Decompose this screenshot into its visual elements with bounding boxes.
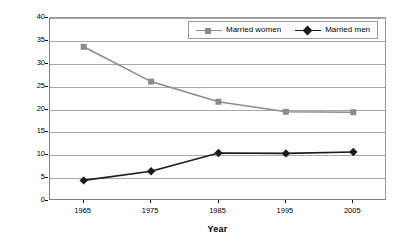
data-point-diamond-icon — [282, 149, 290, 157]
y-tick-label: 0 — [19, 196, 45, 204]
y-tick-label: 25 — [19, 82, 45, 90]
y-tick-mark — [45, 131, 48, 132]
x-tick-mark — [218, 200, 219, 203]
data-point-diamond-icon — [214, 149, 222, 157]
legend-item-married-women: Married women — [196, 25, 281, 35]
legend-label-married-women: Married women — [226, 25, 281, 35]
x-tick-mark — [352, 200, 353, 203]
chart-legend: Married women Married men — [188, 21, 378, 39]
data-point-diamond-icon — [147, 167, 155, 175]
x-tick-mark — [150, 200, 151, 203]
y-tick-label: 40 — [19, 13, 45, 21]
y-tick-mark — [45, 200, 48, 201]
x-tick-mark — [285, 200, 286, 203]
y-tick-label: 15 — [19, 127, 45, 135]
series-married-men — [80, 148, 358, 185]
y-tick-label: 10 — [19, 150, 45, 158]
y-tick-mark — [45, 17, 48, 18]
data-point-square-icon — [350, 109, 356, 115]
y-tick-label: 30 — [19, 59, 45, 67]
chart-container: Hours 0510152025303540 19651975198519952… — [0, 0, 405, 246]
data-point-square-icon — [81, 44, 87, 50]
legend-label-married-men: Married men — [325, 25, 370, 35]
legend-marker-square-icon — [196, 25, 222, 35]
series-married-women — [81, 44, 357, 115]
data-point-diamond-icon — [80, 176, 88, 184]
y-axis-ticks: 0510152025303540 — [17, 17, 45, 200]
y-tick-mark — [45, 109, 48, 110]
x-axis-ticks: 19651975198519952005 — [49, 200, 386, 220]
series-layer — [50, 18, 387, 201]
x-axis-title: Year — [49, 224, 386, 234]
x-tick-label: 2005 — [332, 206, 372, 215]
legend-item-married-men: Married men — [295, 25, 370, 35]
plot-area — [49, 17, 386, 200]
y-tick-mark — [45, 40, 48, 41]
y-tick-label: 5 — [19, 173, 45, 181]
y-tick-mark — [45, 63, 48, 64]
data-point-square-icon — [148, 79, 154, 85]
y-tick-mark — [45, 154, 48, 155]
y-tick-label: 35 — [19, 36, 45, 44]
data-point-diamond-icon — [349, 148, 357, 156]
x-tick-label: 1985 — [198, 206, 238, 215]
y-tick-label: 20 — [19, 105, 45, 113]
x-axis-title-text: Year — [208, 224, 228, 234]
y-tick-mark — [45, 177, 48, 178]
data-point-square-icon — [216, 99, 222, 105]
x-tick-label: 1975 — [130, 206, 170, 215]
data-point-square-icon — [283, 109, 289, 115]
legend-marker-diamond-icon — [295, 25, 321, 35]
x-tick-label: 1965 — [63, 206, 103, 215]
x-tick-label: 1995 — [265, 206, 305, 215]
y-tick-mark — [45, 86, 48, 87]
x-tick-mark — [83, 200, 84, 203]
